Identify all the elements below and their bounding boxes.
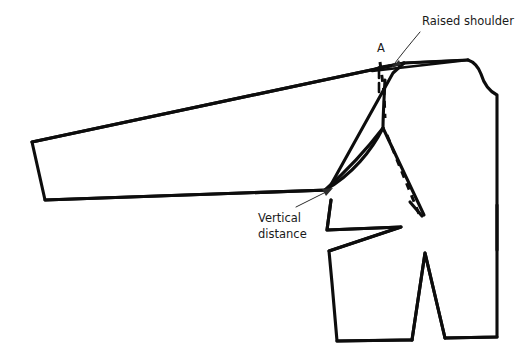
sleeve-upper-edge <box>32 63 404 142</box>
vertical-distance-label-line1: Vertical <box>258 211 301 225</box>
sleeve-lower-edge <box>45 190 328 200</box>
vertical-distance-label-line2: distance <box>258 227 307 241</box>
raised-shoulder-label: Raised shoulder <box>422 14 514 28</box>
vertical-distance-leader-arrow <box>322 188 333 196</box>
hem-left <box>337 340 412 341</box>
armhole-curve-front <box>325 80 385 190</box>
point-a-label: A <box>377 41 385 55</box>
underarm-notch <box>327 200 401 251</box>
lower-bodice-panel <box>327 200 497 341</box>
waist-dart <box>412 253 445 340</box>
pattern-drawing-canvas: Raised shoulder Vertical distance A <box>0 0 526 360</box>
bodice-neckline-edge <box>404 60 468 63</box>
hem-right <box>445 337 497 338</box>
pattern-diagram: Raised shoulder Vertical distance A <box>0 0 526 360</box>
bodice-panel <box>468 60 497 250</box>
